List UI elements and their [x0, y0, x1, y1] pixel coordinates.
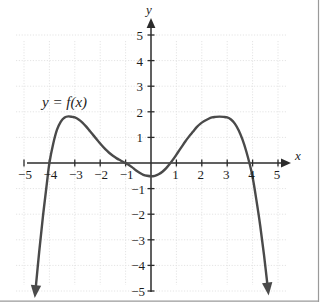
- y-tick-label: −5: [131, 284, 145, 299]
- y-tick-label: −1: [131, 182, 145, 197]
- x-tick-label: −4: [43, 167, 57, 182]
- y-tick-label: −3: [131, 233, 145, 248]
- graph-figure: −5−4−3−2−11234512345−1−2−3−4−5 x y y = f…: [0, 0, 327, 306]
- x-tick-label: 1: [172, 167, 179, 182]
- y-tick-label: 5: [137, 28, 144, 43]
- x-tick-label: 5: [274, 167, 281, 182]
- x-tick-label: −2: [94, 167, 108, 182]
- x-tick-label: −1: [120, 167, 134, 182]
- x-tick-label: −3: [69, 167, 83, 182]
- x-tick-label: −5: [18, 167, 32, 182]
- y-tick-label: −4: [131, 258, 145, 273]
- y-tick-label: −2: [131, 207, 145, 222]
- y-tick-label: 4: [137, 54, 144, 69]
- x-tick-label: 4: [248, 167, 255, 182]
- coordinate-plane-plot: −5−4−3−2−11234512345−1−2−3−4−5 x y y = f…: [0, 0, 327, 306]
- y-axis-label: y: [144, 2, 152, 17]
- function-annotation: y = f(x): [40, 94, 87, 111]
- x-tick-label: 2: [198, 167, 205, 182]
- x-axis-label: x: [294, 148, 301, 163]
- y-tick-label: 3: [137, 79, 144, 94]
- x-tick-label: 3: [223, 167, 230, 182]
- y-tick-label: 1: [137, 130, 144, 145]
- y-tick-label: 2: [137, 105, 144, 120]
